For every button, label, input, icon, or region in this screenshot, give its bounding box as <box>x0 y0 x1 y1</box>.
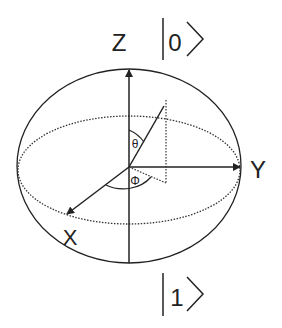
y-axis-label: Y <box>250 156 266 183</box>
z-axis-label: Z <box>112 29 127 56</box>
ket-one: 1 <box>163 273 203 316</box>
ket-zero: 0 <box>163 18 203 60</box>
x-axis-label: X <box>63 225 78 250</box>
ket-zero-value: 0 <box>168 29 181 56</box>
theta-label: θ <box>132 137 139 151</box>
bloch-sphere-diagram: Z 0 Y X θ Φ 1 <box>0 0 282 328</box>
ket-one-value: 1 <box>170 284 183 311</box>
phi-label: Φ <box>130 174 140 188</box>
x-axis <box>67 167 129 214</box>
